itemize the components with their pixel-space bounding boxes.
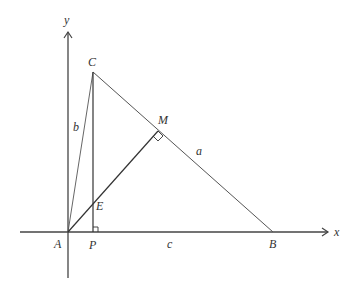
geometry-figure: y x C M E A P B b a c [0, 0, 346, 293]
point-label-C: C [88, 55, 97, 69]
side-label-b: b [73, 120, 79, 134]
right-angle-marker-P [93, 227, 98, 232]
y-axis [64, 32, 72, 278]
point-label-P: P [88, 238, 97, 252]
x-axis-label: x [333, 225, 340, 239]
side-label-c: c [167, 237, 173, 251]
point-label-M: M [157, 113, 169, 127]
point-label-E: E [95, 199, 104, 213]
y-axis-label: y [63, 13, 70, 27]
x-axis [20, 228, 328, 236]
side-a-CB [93, 72, 273, 232]
point-label-B: B [269, 237, 277, 251]
side-label-a: a [196, 144, 202, 158]
point-label-A: A [53, 237, 62, 251]
